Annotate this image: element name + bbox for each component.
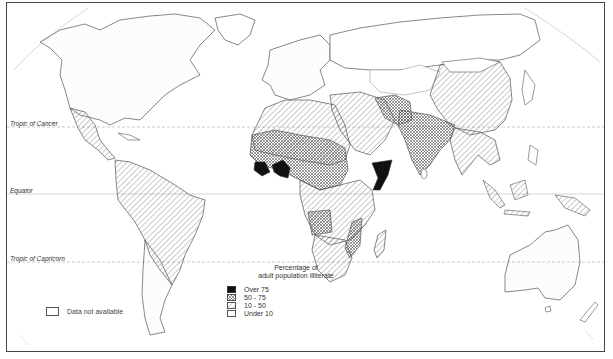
australia — [505, 225, 580, 300]
equator-label: Equator — [10, 187, 33, 194]
solid-black-swatch-icon — [227, 286, 236, 293]
diagonal-hatch-swatch-icon — [227, 302, 236, 309]
world-map — [0, 0, 613, 359]
tasmania — [545, 306, 551, 312]
legend-item-10-50: 10 - 50 — [227, 301, 266, 309]
somalia-over-75 — [372, 160, 392, 190]
greenland — [215, 14, 255, 45]
legend-item-under-10: Under 10 — [227, 309, 273, 317]
empty-swatch-icon — [46, 307, 59, 316]
dotted-swatch-icon — [227, 310, 236, 317]
philippines — [528, 145, 538, 165]
legend-title: Percentage of adult population illiterat… — [236, 264, 356, 280]
legend-item-no-data: Data not available — [46, 307, 123, 316]
java — [504, 210, 530, 216]
north-america — [40, 14, 215, 125]
southeast-asia — [450, 128, 500, 175]
legend-item-over-75: Over 75 — [227, 285, 269, 293]
madagascar — [374, 230, 386, 258]
tropic-of-capricorn-label: Tropic of Capricorn — [10, 255, 65, 262]
new-zealand — [580, 302, 598, 322]
new-guinea — [555, 195, 590, 216]
angola — [308, 210, 332, 235]
legend-item-50-75: 50 - 75 — [227, 293, 266, 301]
tropic-of-cancer-label: Tropic of Cancer — [10, 120, 58, 127]
europe — [262, 35, 330, 100]
russia — [330, 14, 540, 70]
crosshatch-swatch-icon — [227, 294, 236, 301]
borneo — [510, 180, 528, 200]
japan — [522, 70, 535, 105]
